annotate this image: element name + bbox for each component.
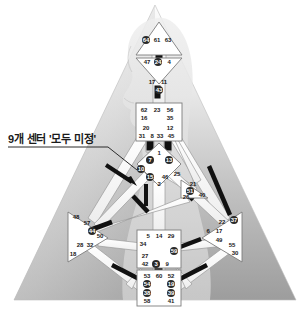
gate-number: 26 — [183, 194, 189, 200]
gate-number-activated: 43 — [155, 86, 163, 94]
gate-number: 14 — [156, 233, 162, 239]
bodygraph-figure: 9개 센터 '모두 미정' 64616347244171143622356163… — [0, 0, 305, 310]
gate-number-activated: 19 — [167, 280, 175, 288]
gate-number: 4 — [167, 59, 170, 65]
gate-number: 20 — [143, 125, 149, 131]
gate-number: 1 — [157, 150, 160, 156]
gate-number: 18 — [70, 251, 76, 257]
gate-number: 48 — [73, 214, 79, 220]
gate-number: 22 — [219, 219, 225, 225]
gate-number: 40 — [199, 192, 205, 198]
gate-number: 25 — [174, 171, 180, 177]
gate-number: 23 — [154, 107, 160, 113]
gate-number-activated: 39 — [167, 289, 175, 297]
gate-number-activated: 59 — [170, 247, 178, 255]
gate-number: 47 — [144, 59, 150, 65]
gate-number-activated: 54 — [143, 280, 151, 288]
gate-number: 29 — [168, 233, 174, 239]
gate-number: 6 — [206, 228, 209, 234]
gate-number: 11 — [161, 79, 167, 85]
gate-number: 32 — [87, 242, 93, 248]
gate-number: 35 — [167, 115, 173, 121]
gate-number: 5 — [146, 233, 149, 239]
gate-number: 62 — [141, 107, 147, 113]
gate-number-activated: 7 — [146, 156, 154, 164]
gate-number: 45 — [168, 133, 174, 139]
gate-number: 12 — [167, 125, 173, 131]
gate-number: 61 — [154, 37, 160, 43]
gate-number: 27 — [142, 253, 148, 259]
gate-number: 31 — [139, 133, 145, 139]
gate-number-activated: 10 — [137, 165, 145, 173]
gate-number: 2 — [157, 181, 160, 187]
gate-number: 63 — [165, 37, 171, 43]
gate-number: 8 — [150, 133, 153, 139]
gate-number-activated: 44 — [88, 227, 96, 235]
gate-number-activated: 24 — [154, 58, 162, 66]
gate-number: 33 — [157, 133, 163, 139]
gate-number: 42 — [142, 261, 148, 267]
gate-number-activated: 15 — [146, 173, 154, 181]
annotation-label: 9개 센터 '모두 미정' — [8, 130, 96, 146]
gate-number-activated: 64 — [142, 36, 150, 44]
gate-number: 16 — [141, 115, 147, 121]
gate-number: 53 — [144, 273, 150, 279]
gate-number-activated: 38 — [143, 289, 151, 297]
gate-number: 55 — [229, 242, 235, 248]
gate-number: 58 — [144, 298, 150, 304]
gate-number: 28 — [77, 242, 83, 248]
gate-number: 57 — [84, 220, 90, 226]
gate-number-activated: 37 — [230, 216, 238, 224]
gate-number: 50 — [97, 233, 103, 239]
gate-number: 34 — [140, 241, 146, 247]
gate-number: 17 — [216, 228, 222, 234]
gate-number: 56 — [167, 107, 173, 113]
gate-number: 49 — [216, 237, 222, 243]
gate-number: 9 — [165, 261, 168, 267]
gate-number-activated: 13 — [165, 156, 173, 164]
gate-number: 30 — [232, 250, 238, 256]
gate-number: 46 — [162, 174, 168, 180]
gate-number: 41 — [168, 298, 174, 304]
gate-number: 60 — [156, 273, 162, 279]
gate-number: 52 — [168, 273, 174, 279]
gate-number-activated: 3 — [152, 260, 160, 268]
gate-number: 17 — [149, 79, 155, 85]
